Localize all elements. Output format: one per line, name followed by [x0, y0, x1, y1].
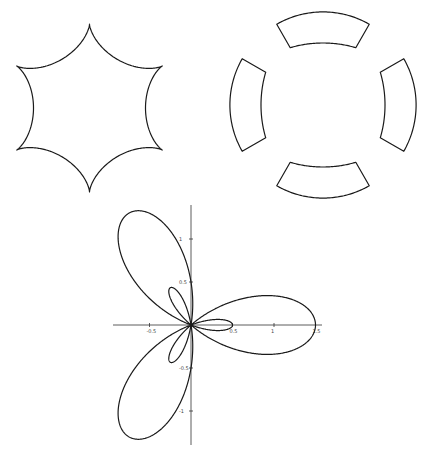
y-tick-label: -1	[179, 408, 184, 414]
hypocycloid-curve	[17, 24, 163, 192]
crescent-shape	[230, 59, 266, 152]
crescent-shape	[277, 12, 370, 48]
y-tick-label: 0.5	[179, 279, 187, 285]
x-tick-label: -0.5	[147, 328, 157, 334]
crescent-shape	[277, 162, 370, 198]
crescent-shape	[380, 59, 416, 152]
figure-canvas: -0.50.511.510.5-0.5-1	[0, 0, 429, 457]
x-tick-label: 1	[271, 328, 274, 334]
polar-axes: -0.50.511.510.5-0.5-1	[113, 205, 322, 445]
y-tick-label: 1	[179, 236, 182, 242]
x-tick-label: 0.5	[230, 328, 238, 334]
y-tick-label: -0.5	[179, 365, 189, 371]
crescent-group	[230, 12, 416, 198]
